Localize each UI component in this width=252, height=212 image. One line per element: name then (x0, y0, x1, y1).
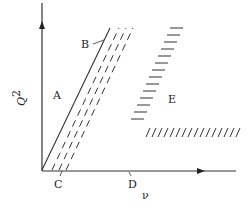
x-axis-arrow-icon (197, 168, 205, 174)
label-e: E (168, 93, 176, 106)
y-axis-arrow-icon (39, 21, 45, 29)
y-axis-label: Q 2 (10, 90, 28, 106)
x-axis (42, 168, 236, 174)
y-axis (39, 3, 45, 171)
label-a: A (52, 89, 62, 102)
label-d: D (128, 178, 137, 191)
label-d-leader (129, 172, 131, 176)
label-b: B (81, 38, 89, 51)
resonance-lines (52, 28, 133, 170)
kinematic-diagram: B A E C D ν Q 2 (0, 0, 252, 212)
y-axis-label-base: Q (15, 97, 28, 106)
label-c: C (54, 178, 62, 191)
label-c-leader (60, 171, 62, 176)
region-e-hatch (146, 128, 240, 137)
x-axis-label: ν (142, 189, 149, 202)
y-axis-label-exponent: 2 (10, 90, 23, 97)
